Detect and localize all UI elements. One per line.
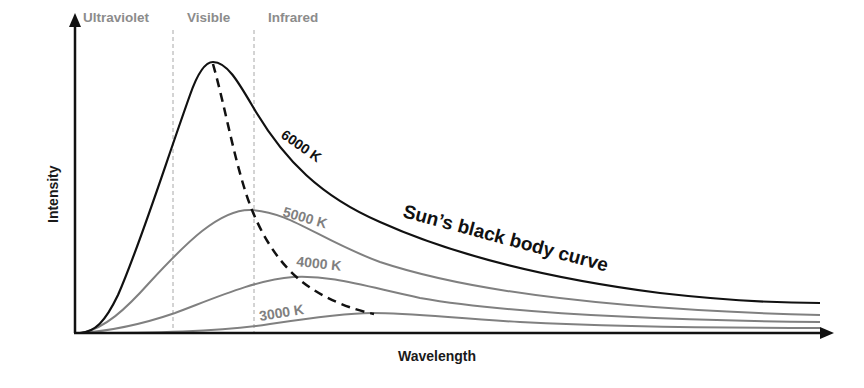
y-axis-label: Intensity [45,165,61,223]
black-body-diagram: Ultraviolet Visible Infrared Wavelength … [0,0,864,388]
label-4000k: 4000 K [296,253,343,274]
curve-4000k [80,277,820,333]
x-axis-label: Wavelength [398,348,476,364]
curve-3000k [80,313,820,333]
curve-6000k [80,62,820,333]
label-6000k: 6000 K [278,126,324,165]
x-axis-arrow-icon [820,327,834,339]
region-label-ultraviolet: Ultraviolet [83,10,150,25]
region-label-visible: Visible [187,10,231,25]
y-axis-arrow-icon [69,13,81,27]
region-label-infrared: Infrared [268,10,318,25]
